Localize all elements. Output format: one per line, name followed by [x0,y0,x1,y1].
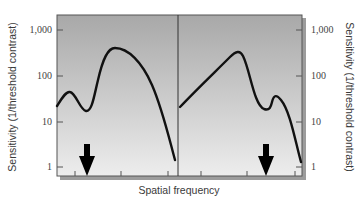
x-axis-label: Spatial frequency [138,184,219,196]
ytick-left-100: 100 [37,70,52,81]
ytick-right-100: 100 [311,70,326,81]
y-axis-label-left: Sensitivity (1/threshold contrast) [6,22,18,171]
ytick-right-10: 10 [311,116,321,127]
y-axis-label-right: Sensitivity (1/threshold contrast) [344,22,356,171]
ytick-left-1000: 1,000 [30,24,53,35]
ytick-right-1: 1 [311,161,316,172]
chart-canvas: 1,000 100 10 1 1,000 100 10 1 [0,0,362,204]
ytick-left-1: 1 [47,161,52,172]
ytick-left-10: 10 [42,116,52,127]
ytick-right-1000: 1,000 [311,24,334,35]
